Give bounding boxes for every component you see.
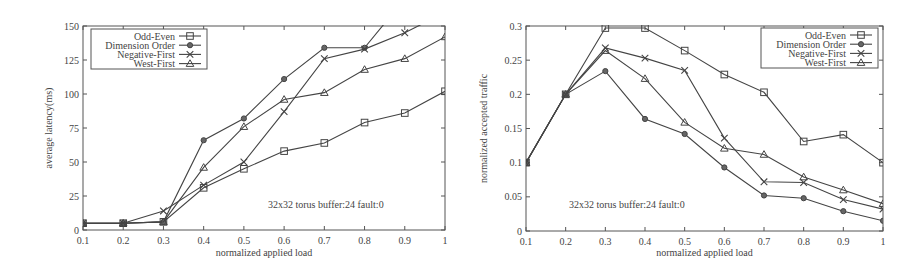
circle-marker-icon (201, 138, 206, 143)
x-tick-label: 0.8 (358, 235, 371, 246)
y-tick-label: 0.05 (505, 191, 523, 202)
y-tick-label: 75 (69, 123, 79, 134)
y-tick-label: 0 (517, 226, 522, 237)
x-tick-label: 1 (443, 235, 448, 246)
circle-marker-icon (722, 165, 727, 170)
circle-marker-icon (187, 43, 192, 48)
x-tick-label: 0.5 (678, 236, 691, 247)
y-tick-label: 150 (64, 21, 79, 32)
x-axis-title: normalized applied load (656, 247, 753, 258)
x-tick-label: 0.6 (278, 235, 291, 246)
x-tick-label: 1 (881, 236, 886, 247)
x-marker-icon (401, 30, 408, 37)
circle-marker-icon (322, 45, 327, 50)
x-axis-title: normalized applied load (216, 247, 313, 258)
circle-marker-icon (642, 116, 647, 121)
circle-marker-icon (858, 42, 863, 47)
x-marker-icon (721, 135, 728, 142)
x-tick-label: 0.7 (758, 236, 771, 247)
legend-label: West-First (134, 58, 176, 69)
x-tick-label: 0.4 (639, 236, 652, 247)
x-tick-label: 0.5 (238, 235, 251, 246)
y-axis-title: normalized accepted traffic (478, 73, 489, 183)
y-tick-label: 0.25 (505, 55, 523, 66)
x-tick-label: 0.8 (797, 236, 810, 247)
y-tick-label: 100 (64, 89, 79, 100)
circle-marker-icon (682, 131, 687, 136)
series-west-first (522, 47, 887, 207)
x-tick-label: 0.3 (157, 235, 170, 246)
x-tick-label: 0.2 (559, 236, 572, 247)
x-marker-icon (642, 55, 649, 62)
circle-marker-icon (761, 193, 766, 198)
y-tick-label: 0.15 (505, 123, 523, 134)
circle-marker-icon (801, 196, 806, 201)
traffic-chart: 0.10.20.30.40.50.60.70.80.9100.050.10.15… (478, 21, 887, 259)
x-marker-icon (160, 208, 167, 215)
x-tick-label: 0.9 (837, 236, 850, 247)
y-tick-label: 25 (69, 191, 79, 202)
series-line (526, 51, 883, 204)
x-tick-label: 0.1 (520, 236, 533, 247)
series-odd-even (80, 88, 449, 227)
legend: Odd-EvenDimension OrderNegative-FirstWes… (761, 28, 878, 68)
y-tick-label: 0.3 (510, 21, 523, 32)
x-marker-icon (241, 159, 248, 166)
y-tick-label: 50 (69, 157, 79, 168)
chart-annotation: 32x32 torus buffer:24 fault:0 (268, 199, 384, 210)
x-tick-label: 0.6 (718, 236, 731, 247)
circle-marker-icon (282, 76, 287, 81)
y-tick-label: 0 (74, 225, 79, 236)
x-tick-label: 0.3 (599, 236, 612, 247)
circle-marker-icon (603, 69, 608, 74)
circle-marker-icon (880, 218, 885, 223)
series-line (83, 91, 445, 223)
circle-marker-icon (241, 116, 246, 121)
latency-chart: 0.10.20.30.40.50.60.70.80.91025507510012… (43, 0, 449, 258)
series-negative-first (523, 45, 887, 213)
x-marker-icon (681, 67, 688, 74)
legend-label: West-First (805, 57, 847, 68)
y-tick-label: 0.2 (510, 89, 523, 100)
x-tick-label: 0.2 (117, 235, 130, 246)
y-axis-title: average latency(ms) (43, 88, 55, 169)
x-tick-label: 0.1 (77, 235, 90, 246)
x-tick-label: 0.9 (399, 235, 412, 246)
x-marker-icon (281, 108, 288, 115)
y-tick-label: 125 (64, 55, 79, 66)
chart-annotation: 32x32 torus buffer:24 fault:0 (569, 199, 685, 210)
x-tick-label: 0.7 (318, 235, 331, 246)
x-tick-label: 0.4 (197, 235, 210, 246)
y-tick-label: 0.1 (510, 157, 523, 168)
circle-marker-icon (841, 209, 846, 214)
legend: Odd-EvenDimension OrderNegative-FirstWes… (91, 29, 207, 69)
figure-canvas: 0.10.20.30.40.50.60.70.80.91025507510012… (0, 0, 924, 271)
